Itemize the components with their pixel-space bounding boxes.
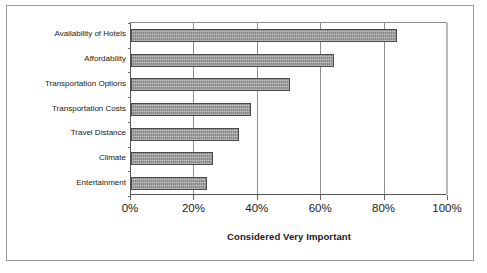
x-axis-tick	[257, 195, 258, 200]
category-axis-tick	[128, 23, 131, 24]
x-axis-tick-label: 100%	[417, 201, 477, 215]
bar	[131, 103, 251, 116]
x-axis-tick-label: 80%	[354, 201, 414, 215]
bar	[131, 29, 397, 42]
category-label: Affordability	[8, 54, 126, 63]
bar-row	[131, 171, 446, 196]
bar-row	[131, 97, 446, 122]
category-label: Transportation Costs	[8, 104, 126, 113]
category-axis-tick	[128, 171, 131, 172]
category-axis-tick	[128, 97, 131, 98]
category-label: Travel Distance	[8, 128, 126, 137]
category-label: Climate	[8, 153, 126, 162]
x-axis-ticks	[130, 195, 448, 200]
x-axis-tick-label: 0%	[100, 201, 160, 215]
category-label: Entertainment	[8, 178, 126, 187]
x-axis-tick-labels: 0%20%40%60%80%100%	[0, 201, 487, 217]
bar	[131, 128, 239, 141]
bar-row	[131, 147, 446, 172]
x-axis-tick	[447, 195, 448, 200]
bar-series	[131, 23, 446, 194]
category-axis-tick	[128, 48, 131, 49]
bar-row	[131, 72, 446, 97]
x-axis-tick-label: 20%	[163, 201, 223, 215]
x-axis-tick-label: 40%	[227, 201, 287, 215]
x-axis-title: Considered Very Important	[130, 231, 448, 242]
plot-area	[130, 22, 447, 195]
category-axis-tick	[128, 122, 131, 123]
bar	[131, 54, 334, 67]
chart-figure: Availability of HotelsAffordabilityTrans…	[0, 0, 487, 273]
category-axis-tick	[128, 72, 131, 73]
gridline	[447, 23, 448, 194]
x-axis-tick	[384, 195, 385, 200]
bar-row	[131, 122, 446, 147]
category-axis-labels: Availability of HotelsAffordabilityTrans…	[8, 22, 126, 195]
x-axis-tick	[320, 195, 321, 200]
bar	[131, 152, 213, 165]
category-label: Transportation Options	[8, 79, 126, 88]
x-axis-tick	[130, 195, 131, 200]
bar	[131, 78, 290, 91]
x-axis-tick	[193, 195, 194, 200]
category-axis-tick	[128, 147, 131, 148]
category-label: Availability of Hotels	[8, 29, 126, 38]
bar-row	[131, 23, 446, 48]
bar-row	[131, 48, 446, 73]
x-axis-tick-label: 60%	[290, 201, 350, 215]
bar	[131, 177, 207, 190]
